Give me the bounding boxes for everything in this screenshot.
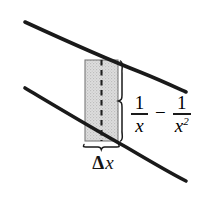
height-brace-icon bbox=[119, 61, 123, 141]
width-brace-icon bbox=[83, 145, 119, 150]
figure-canvas bbox=[0, 0, 213, 218]
calculus-figure: 1 x − 1 x2 Δx bbox=[0, 0, 213, 218]
